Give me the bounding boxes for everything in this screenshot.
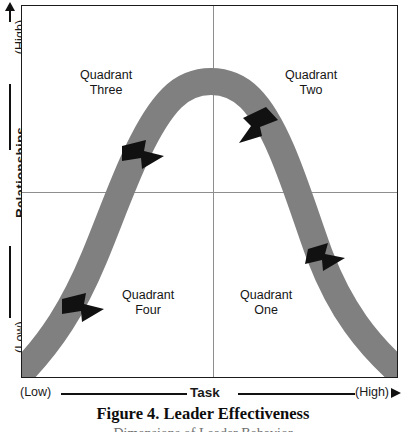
effectiveness-curve-band — [22, 82, 398, 379]
x-axis-rule-left — [61, 393, 187, 395]
quadrant-two-label: Quadrant Two — [285, 68, 337, 99]
y-axis: (High) Relationships (Low) — [0, 0, 22, 380]
quadrant-one-line1: Quadrant — [240, 288, 292, 303]
quadrant-one-label: Quadrant One — [240, 288, 292, 319]
x-axis: (Low) Task (High) — [0, 384, 406, 404]
figure-caption: Figure 4. Leader Effectiveness — [0, 404, 406, 424]
x-axis-low-label: (Low) — [20, 385, 51, 399]
quadrant-four-line2: Four — [122, 303, 174, 318]
quadrant-two-line1: Quadrant — [285, 68, 337, 83]
x-axis-arrow-icon — [391, 388, 401, 398]
quadrant-four-line1: Quadrant — [122, 288, 174, 303]
figure-leader-effectiveness: (High) Relationships (Low) — [0, 0, 406, 432]
quadrant-two-line2: Two — [285, 83, 337, 98]
plot-frame: Quadrant Three Quadrant Two Quadrant Fou… — [21, 5, 398, 378]
x-axis-title: Task — [190, 385, 220, 400]
quadrant-three-line2: Three — [80, 83, 132, 98]
quadrant-three-label: Quadrant Three — [80, 68, 132, 99]
x-axis-rule-right — [238, 393, 355, 395]
quadrant-three-line1: Quadrant — [80, 68, 132, 83]
quadrant-four-label: Quadrant Four — [122, 288, 174, 319]
effectiveness-curve-svg — [22, 6, 398, 378]
quadrant-one-line2: One — [240, 303, 292, 318]
figure-caption-cutoff: Dimensions of Leader Behavior — [0, 426, 406, 432]
x-axis-high-label: (High) — [355, 385, 389, 399]
